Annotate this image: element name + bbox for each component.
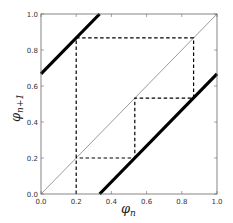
- x-tick-label: 0.8: [176, 198, 187, 206]
- y-tick-label: 1.0: [27, 11, 38, 19]
- y-tick-label: 0.6: [27, 83, 39, 91]
- y-tick-label: 0.2: [27, 155, 38, 163]
- cobweb-chart: 0.00.20.40.60.81.0 0.00.20.40.60.81.0 φn…: [0, 0, 233, 223]
- x-axis-label: φn: [121, 201, 136, 218]
- series-thin-solid-0: [41, 14, 217, 194]
- series-thick-solid-1: [41, 14, 100, 74]
- y-axis-label: φn+1: [8, 94, 25, 122]
- plot-lines: [41, 14, 217, 194]
- y-tick-label: 0.4: [27, 119, 39, 127]
- y-tick-label: 0.8: [27, 47, 38, 55]
- x-tick-label: 0.2: [71, 198, 82, 206]
- series-thick-solid-2: [100, 74, 217, 194]
- x-tick-label: 0.6: [141, 198, 153, 206]
- y-tick-labels: 0.00.20.40.60.81.0: [27, 11, 39, 199]
- y-tick-label: 0.0: [27, 191, 38, 199]
- x-axis-label-sub: n: [130, 208, 136, 218]
- x-tick-label: 1.0: [211, 198, 222, 206]
- x-tick-label: 0.4: [106, 198, 118, 206]
- x-tick-label: 0.0: [35, 198, 46, 206]
- y-axis-label-sub: n+1: [15, 94, 25, 113]
